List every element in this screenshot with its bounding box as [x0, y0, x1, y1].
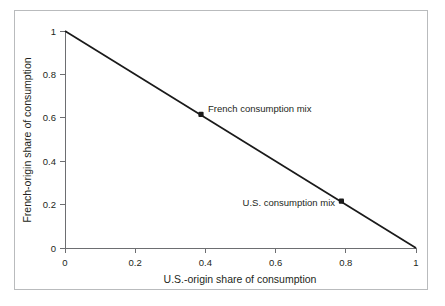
- x-tick-label: 0.8: [339, 257, 352, 268]
- chart-canvas: 1 0.8 0.6 0.4 0.2 0 0 0.2 0.4 0.6 0.8: [0, 0, 445, 306]
- y-tick-label: 0: [51, 243, 56, 254]
- x-axis-ticks: 0 0.2 0.4 0.6 0.8 1: [62, 248, 418, 268]
- chart-figure: 1 0.8 0.6 0.4 0.2 0 0 0.2 0.4 0.6 0.8: [0, 0, 445, 306]
- x-axis-title: U.S.-origin share of consumption: [164, 273, 317, 285]
- x-tick-label: 1: [413, 257, 418, 268]
- data-point-french[interactable]: [198, 112, 203, 117]
- y-tick-label: 1: [51, 26, 56, 37]
- y-axis-title: French-origin share of consumption: [21, 57, 33, 222]
- budget-line: [65, 31, 416, 248]
- x-tick-label: 0.2: [129, 257, 142, 268]
- x-tick-label: 0.4: [199, 257, 212, 268]
- x-tick-label: 0: [62, 257, 67, 268]
- y-tick-label: 0.2: [43, 199, 56, 210]
- y-tick-label: 0.6: [43, 112, 56, 123]
- data-point-us[interactable]: [339, 199, 344, 204]
- annotation-us-consumption-mix: U.S. consumption mix: [243, 197, 336, 208]
- annotation-french-consumption-mix: French consumption mix: [208, 103, 312, 114]
- y-axis-ticks: 1 0.8 0.6 0.4 0.2 0: [43, 26, 65, 254]
- y-tick-label: 0.4: [43, 156, 56, 167]
- y-tick-label: 0.8: [43, 69, 56, 80]
- x-tick-label: 0.6: [269, 257, 282, 268]
